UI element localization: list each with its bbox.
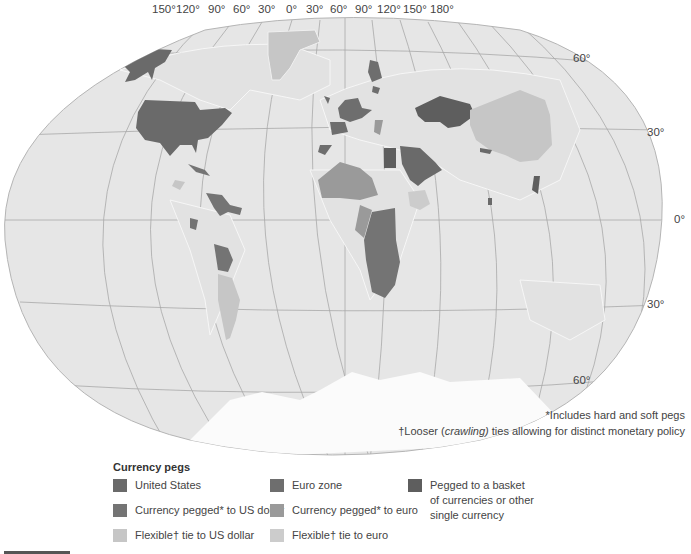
swatch-flexible-usd [113, 529, 127, 542]
legend-label: Euro zone [292, 478, 342, 493]
swatch-basket [408, 479, 422, 492]
region-egypt [384, 148, 396, 168]
lat-label: 30° [647, 126, 664, 138]
footnote-hard-soft: *Includes hard and soft pegs [398, 407, 685, 423]
longitude-labels: 150° 120° 90° 60° 30° 0° 30° 60° 90° 120… [152, 3, 454, 15]
lat-label: 0° [674, 213, 685, 225]
lon-label: 150° [152, 3, 176, 15]
lat-label: 30° [647, 298, 664, 310]
legend-label-line: Pegged to a basket [430, 479, 525, 491]
lon-label: 90° [355, 3, 372, 15]
swatch-flexible-euro [270, 529, 284, 542]
lon-label: 180° [430, 3, 454, 15]
lon-label: 120° [377, 3, 401, 15]
legend-item-pegged-usd: Currency pegged* to US dollar [113, 503, 284, 518]
footnote-looser-suffix: ties allowing for distinct monetary poli… [489, 425, 685, 437]
legend-item-flexible-euro: Flexible† tie to euro [270, 528, 388, 543]
world-map: 150° 120° 90° 60° 30° 0° 30° 60° 90° 120… [0, 0, 691, 460]
legend-item-euro-zone: Euro zone [270, 478, 342, 493]
legend-label: Currency pegged* to US dollar [135, 503, 284, 518]
legend-item-pegged-euro: Currency pegged* to euro [270, 503, 418, 518]
legend-item-basket: Pegged to a basket of currencies or othe… [408, 478, 534, 523]
legend-item-flexible-usd: Flexible† tie to US dollar [113, 528, 254, 543]
footnote-looser-prefix: †Looser ( [398, 425, 444, 437]
legend-label: Flexible† tie to US dollar [135, 528, 254, 543]
legend-label: United States [135, 478, 201, 493]
legend: Currency pegs United States Currency peg… [113, 461, 673, 550]
lon-label: 120° [176, 3, 200, 15]
legend-label-line: of currencies or other [430, 494, 534, 506]
swatch-euro-zone [270, 479, 284, 492]
lon-label: 60° [330, 3, 347, 15]
lon-label: 60° [233, 3, 250, 15]
lat-label: 60° [573, 374, 590, 386]
swatch-pegged-usd [113, 504, 127, 517]
lon-label: 90° [208, 3, 225, 15]
legend-label: Flexible† tie to euro [292, 528, 388, 543]
legend-item-united-states: United States [113, 478, 201, 493]
swatch-pegged-euro [270, 504, 284, 517]
footnotes: *Includes hard and soft pegs †Looser (cr… [398, 407, 685, 439]
lon-label: 30° [258, 3, 275, 15]
legend-title: Currency pegs [113, 461, 673, 473]
lat-label: 60° [573, 52, 590, 64]
region-sri-lanka [488, 198, 492, 205]
swatch-united-states [113, 479, 127, 492]
footnote-looser: †Looser (crawling) ties allowing for dis… [398, 423, 685, 439]
lon-label: 150° [403, 3, 427, 15]
legend-label-line: single currency [430, 509, 504, 521]
legend-label-basket: Pegged to a basket of currencies or othe… [430, 478, 534, 523]
legend-label: Currency pegged* to euro [292, 503, 418, 518]
legend-grid: United States Currency pegged* to US dol… [113, 478, 673, 550]
lon-label: 30° [306, 3, 323, 15]
footnote-looser-italic: crawling) [445, 425, 489, 437]
lon-label: 0° [286, 3, 297, 15]
